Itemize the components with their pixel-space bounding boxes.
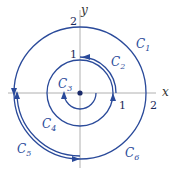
c5-arrow-icon xyxy=(72,156,80,162)
label-c3: C3 xyxy=(58,77,72,93)
x-axis-label: x xyxy=(162,85,169,99)
label-c2: C2 xyxy=(111,55,125,71)
origin-point xyxy=(77,90,82,95)
label-c6: C6 xyxy=(125,146,139,162)
tick-x-2: 2 xyxy=(150,99,157,112)
contour-diagram: 2 1 1 2 y x C1 C2 C3 C4 C5 C6 xyxy=(0,0,183,176)
label-c5: C5 xyxy=(17,142,31,158)
c4-arrow-icon xyxy=(110,93,116,101)
y-axis-label: y xyxy=(80,3,88,17)
tick-y-1: 1 xyxy=(70,48,77,61)
label-c4: C4 xyxy=(42,117,56,133)
c2-arrow-icon xyxy=(82,54,90,60)
c3-arrow-icon xyxy=(61,91,67,99)
tick-x-1: 1 xyxy=(119,99,126,112)
tick-y-2: 2 xyxy=(70,15,77,28)
label-c1: C1 xyxy=(136,37,150,53)
